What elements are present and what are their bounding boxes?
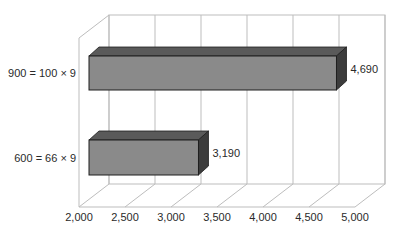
x-tick-label: 3,000 xyxy=(157,211,185,223)
gridlines xyxy=(79,15,385,207)
x-tick-label: 3,500 xyxy=(203,211,231,223)
bar-chart-3d: 2,0002,5003,0003,5004,0004,5005,0004,690… xyxy=(0,0,399,237)
x-tick-label: 4,000 xyxy=(249,211,277,223)
x-tick-label: 2,500 xyxy=(111,211,139,223)
bar xyxy=(89,47,346,90)
category-label: 900 = 100 × 9 xyxy=(8,67,76,79)
bar xyxy=(89,131,208,175)
x-tick-label: 4,500 xyxy=(295,211,323,223)
data-label: 3,190 xyxy=(212,147,240,159)
category-label: 600 = 66 × 9 xyxy=(14,152,76,164)
x-tick-label: 5,000 xyxy=(341,211,369,223)
x-tick-label: 2,000 xyxy=(65,211,93,223)
data-label: 4,690 xyxy=(350,63,378,75)
